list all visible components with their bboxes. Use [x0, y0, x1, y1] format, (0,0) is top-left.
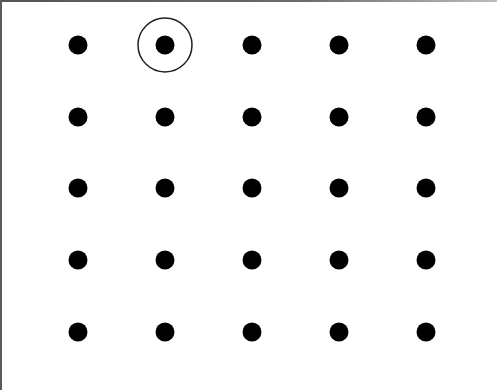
- grid-dot-r4-c3: [330, 323, 349, 342]
- grid-dot-r2-c2: [243, 179, 262, 198]
- grid-dot-r1-c3: [330, 108, 349, 127]
- grid-dot-r3-c0: [69, 251, 88, 270]
- grid-dot-r2-c3: [330, 179, 349, 198]
- grid-dot-r2-c1: [156, 179, 175, 198]
- grid-dot-r0-c0: [69, 36, 88, 55]
- dot-grid-diagram: [0, 0, 497, 390]
- grid-dot-r3-c1: [156, 251, 175, 270]
- grid-dot-r4-c4: [417, 323, 436, 342]
- grid-dot-r1-c0: [69, 108, 88, 127]
- grid-dot-r3-c4: [417, 251, 436, 270]
- grid-dot-r2-c0: [69, 179, 88, 198]
- grid-dot-r4-c1: [156, 323, 175, 342]
- grid-dot-r3-c2: [243, 251, 262, 270]
- grid-dot-r0-c1: [156, 36, 175, 55]
- grid-dot-r1-c4: [417, 108, 436, 127]
- dot-grid: [0, 0, 497, 390]
- grid-dot-r0-c2: [243, 36, 262, 55]
- grid-dot-r3-c3: [330, 251, 349, 270]
- grid-dot-r0-c3: [330, 36, 349, 55]
- grid-dot-r0-c4: [417, 36, 436, 55]
- grid-dot-r1-c1: [156, 108, 175, 127]
- grid-dot-r1-c2: [243, 108, 262, 127]
- grid-dot-r4-c2: [243, 323, 262, 342]
- grid-dot-r4-c0: [69, 323, 88, 342]
- grid-dot-r2-c4: [417, 179, 436, 198]
